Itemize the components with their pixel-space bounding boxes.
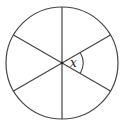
- angle-arc: [80, 53, 83, 74]
- angle-label: x: [70, 56, 77, 70]
- circle-diagram: x: [0, 0, 125, 128]
- center-point: [61, 62, 64, 65]
